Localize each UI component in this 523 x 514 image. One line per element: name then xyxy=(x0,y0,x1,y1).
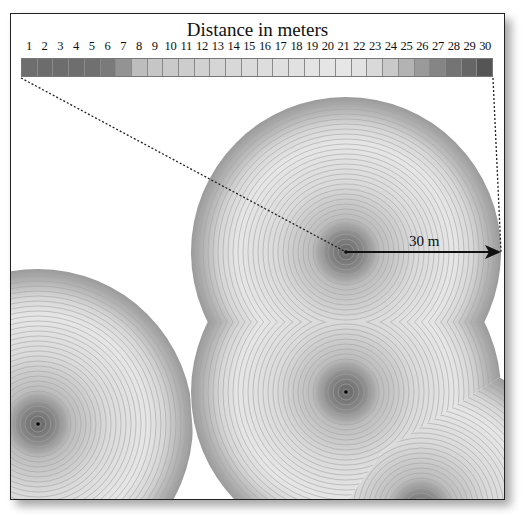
legend-color-swatch xyxy=(148,59,164,76)
legend-tick-label: 13 xyxy=(210,39,226,54)
legend-color-swatch xyxy=(210,59,226,76)
legend-color-swatch xyxy=(132,59,148,76)
legend-tick-label: 17 xyxy=(273,39,289,54)
legend-color-swatch xyxy=(289,59,305,76)
legend-color-swatch xyxy=(38,59,54,76)
legend-color-swatch xyxy=(242,59,258,76)
legend-tick-label: 3 xyxy=(52,39,68,54)
legend-tick-label: 7 xyxy=(115,39,131,54)
legend-color-swatch xyxy=(477,59,492,76)
legend-tick-label: 30 xyxy=(477,39,493,54)
legend-tick-label: 26 xyxy=(414,39,430,54)
legend-tick-label: 16 xyxy=(257,39,273,54)
legend-tick-label: 28 xyxy=(446,39,462,54)
legend-color-swatch xyxy=(273,59,289,76)
legend-tick-label: 9 xyxy=(147,39,163,54)
legend-color-swatch xyxy=(258,59,274,76)
radius-label: 30 m xyxy=(409,233,439,250)
legend-color-swatch xyxy=(69,59,85,76)
legend-color-swatch xyxy=(226,59,242,76)
legend-tick-label: 8 xyxy=(131,39,147,54)
legend-color-swatch xyxy=(336,59,352,76)
legend-color-swatch xyxy=(179,59,195,76)
legend-color-swatch xyxy=(415,59,431,76)
figure-frame: Distance in meters 123456789101112131415… xyxy=(10,13,505,500)
legend-tick-label: 6 xyxy=(100,39,116,54)
legend-color-swatch xyxy=(399,59,415,76)
legend-color-swatch xyxy=(101,59,117,76)
legend-color-swatch xyxy=(22,59,38,76)
legend-color-swatch xyxy=(320,59,336,76)
legend-tick-label: 12 xyxy=(194,39,210,54)
legend-tick-label: 18 xyxy=(288,39,304,54)
legend-tick-label: 1 xyxy=(21,39,37,54)
legend-tick-label: 10 xyxy=(162,39,178,54)
legend-tick-label: 25 xyxy=(398,39,414,54)
legend-color-swatch xyxy=(352,59,368,76)
legend-tick-label: 24 xyxy=(383,39,399,54)
legend-color-swatch xyxy=(430,59,446,76)
legend-tick-label: 15 xyxy=(241,39,257,54)
legend-tick-label: 22 xyxy=(351,39,367,54)
legend-tick-label: 14 xyxy=(225,39,241,54)
legend-color-swatch xyxy=(446,59,462,76)
legend-tick-label: 29 xyxy=(461,39,477,54)
legend-color-swatch xyxy=(53,59,69,76)
legend-tick-label: 20 xyxy=(320,39,336,54)
legend-tick-label: 21 xyxy=(336,39,352,54)
buffer-point-3 xyxy=(11,269,193,499)
legend-tick-label: 5 xyxy=(84,39,100,54)
legend-color-swatch xyxy=(383,59,399,76)
legend-color-bar xyxy=(21,58,493,77)
legend-color-swatch xyxy=(163,59,179,76)
legend-title: Distance in meters xyxy=(11,19,504,41)
legend-color-swatch xyxy=(195,59,211,76)
legend-tick-label: 2 xyxy=(37,39,53,54)
distance-map xyxy=(11,14,504,499)
legend-color-swatch xyxy=(305,59,321,76)
legend-color-swatch xyxy=(367,59,383,76)
legend-tick-label: 23 xyxy=(367,39,383,54)
legend-ticks: 1234567891011121314151617181920212223242… xyxy=(21,39,493,55)
legend-tick-label: 11 xyxy=(178,39,194,54)
legend-tick-label: 27 xyxy=(430,39,446,54)
legend-color-swatch xyxy=(462,59,478,76)
legend-color-swatch xyxy=(85,59,101,76)
legend-color-swatch xyxy=(116,59,132,76)
legend-tick-label: 19 xyxy=(304,39,320,54)
legend-tick-label: 4 xyxy=(68,39,84,54)
